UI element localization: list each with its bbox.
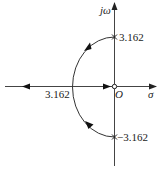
y-axis-label: jω bbox=[98, 4, 111, 16]
real-axis-arrow-left-icon bbox=[22, 84, 30, 90]
arc-arrow-lower-icon bbox=[85, 121, 94, 129]
real-axis-arrow-right-icon bbox=[103, 84, 111, 90]
root-locus-diagram: jω 3.162 −3.162 3.162 O σ bbox=[0, 0, 161, 174]
pole-lower-label: −3.162 bbox=[117, 131, 148, 143]
breakaway-label: 3.162 bbox=[45, 88, 70, 100]
x-axis-label: σ bbox=[148, 88, 154, 100]
origin-label: O bbox=[115, 88, 123, 100]
arc-arrow-upper-icon bbox=[84, 43, 92, 52]
pole-upper-label: 3.162 bbox=[119, 31, 144, 43]
